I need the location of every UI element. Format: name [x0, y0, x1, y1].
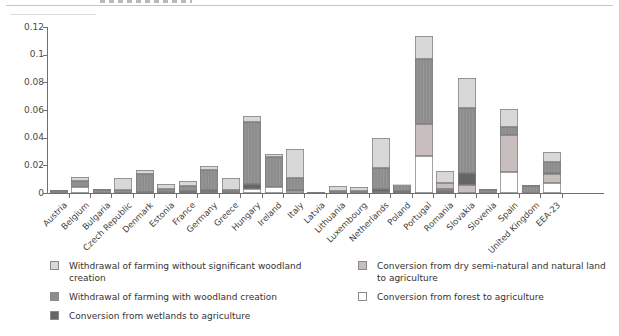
bar-segment-forest [243, 189, 261, 193]
cropped-text-fragment [100, 0, 192, 3]
bar-segment-wetlands [286, 190, 304, 192]
y-tick-label: 0.12 [4, 23, 44, 32]
bar-segment-without [372, 138, 390, 168]
bar-segment-with [415, 59, 433, 124]
bar-segment-with [350, 191, 368, 193]
plot-area [47, 27, 604, 194]
bar-segment-forest [415, 156, 433, 193]
y-tick-label: 0.1 [4, 50, 44, 59]
x-tick-mark [476, 194, 477, 198]
bar-segment-wetlands [243, 184, 261, 189]
bar-segment-with [71, 181, 89, 188]
bar-segment-with [522, 186, 540, 193]
bar-segment-dry [500, 135, 518, 172]
legend-swatch-wetlands [50, 311, 59, 320]
bar-segment-without [458, 78, 476, 108]
x-tick-mark [540, 194, 541, 198]
bar-segment-dry [458, 185, 476, 193]
legend-label: Withdrawal of farming without significan… [69, 260, 330, 284]
x-tick-mark [283, 194, 284, 198]
x-tick-mark [69, 194, 70, 198]
y-tick-label: 0.04 [4, 133, 44, 142]
bar-segment-forest [372, 192, 390, 193]
x-tick-mark [240, 194, 241, 198]
bar-segment-with [500, 127, 518, 135]
x-tick-mark [519, 194, 520, 198]
bar-segment-wetlands [543, 173, 561, 174]
bar-segment-with [479, 190, 497, 193]
bar-segment-with [50, 191, 68, 193]
bar-segment-wetlands [179, 191, 197, 193]
legend-label: Conversion from forest to agriculture [377, 291, 544, 303]
y-tick-label: 0.08 [4, 78, 44, 87]
bar-segment-without [393, 184, 411, 185]
bar-segment-with [222, 190, 240, 192]
legend-swatch-with [50, 292, 59, 301]
bar-segment-without [200, 166, 218, 170]
y-tick-mark [43, 193, 47, 194]
bar-segment-with [329, 191, 347, 193]
y-tick-mark [43, 110, 47, 111]
x-tick-mark [390, 194, 391, 198]
legend-swatch-without [50, 261, 59, 270]
bar-segment-wetlands [136, 192, 154, 193]
bar-segment-with [265, 157, 283, 187]
stacked-bar-chart-figure: AustriaBelgiumBulgariaCzech RepublicDenm… [0, 0, 619, 336]
bar-segment-without [522, 185, 540, 186]
x-tick-mark [562, 194, 563, 198]
x-tick-mark [197, 194, 198, 198]
legend-swatch-dry [358, 261, 367, 270]
bar-segment-without [350, 187, 368, 191]
x-tick-mark [133, 194, 134, 198]
bar-segment-without [286, 149, 304, 177]
legend-item-dry: Conversion from dry semi-natural and nat… [358, 260, 613, 284]
legend-swatch-forest [358, 292, 367, 301]
bar-segment-with [393, 184, 411, 191]
x-tick-mark [498, 194, 499, 198]
bar-segment-forest [286, 191, 304, 193]
bar-segment-without [136, 170, 154, 174]
x-tick-mark [433, 194, 434, 198]
x-tick-mark [262, 194, 263, 198]
bar-segment-without [114, 178, 132, 190]
bar-segment-with [458, 108, 476, 174]
bar-segment-with [136, 174, 154, 192]
x-tick-mark [304, 194, 305, 198]
bar-segment-with [114, 190, 132, 193]
bar-segment-without [543, 152, 561, 162]
bar-segment-without [179, 181, 197, 186]
bar-segment-dry [415, 124, 433, 157]
bar-segment-without [222, 178, 240, 190]
y-tick-label: 0 [4, 189, 44, 198]
y-tick-mark [43, 55, 47, 56]
x-tick-mark [219, 194, 220, 198]
bar-segment-with [372, 168, 390, 189]
x-tick-mark [176, 194, 177, 198]
x-tick-mark [154, 194, 155, 198]
bar-segment-forest [543, 183, 561, 193]
bar-segment-with [286, 178, 304, 190]
bar-segment-forest [200, 192, 218, 193]
bar-segment-without [329, 186, 347, 190]
legend-item-with: Withdrawal of farming with woodland crea… [50, 291, 330, 303]
x-tick-mark [90, 194, 91, 198]
bar-segment-dry [543, 174, 561, 183]
bar-segment-with [436, 189, 454, 191]
bar-segment-wetlands [200, 190, 218, 192]
bar-segment-wetlands [157, 192, 175, 193]
y-tick-mark [43, 165, 47, 166]
x-tick-mark [326, 194, 327, 198]
bar-segment-wetlands [458, 173, 476, 185]
x-tick-mark [369, 194, 370, 198]
bar-segment-wetlands [436, 191, 454, 193]
bar-segment-without [243, 116, 261, 122]
legend-column-right: Conversion from dry semi-natural and nat… [358, 260, 613, 303]
bar-segment-forest [500, 172, 518, 193]
bar-segment-without [436, 171, 454, 183]
bar-segment-forest [71, 187, 89, 193]
bar-segment-wetlands [393, 191, 411, 193]
x-tick-mark [455, 194, 456, 198]
bar-segment-wetlands [372, 189, 390, 192]
top-left-short-line [10, 14, 96, 15]
bar-segment-without [415, 36, 433, 59]
